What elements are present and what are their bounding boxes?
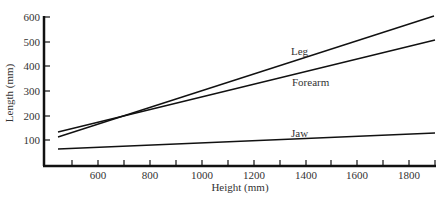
x-tick-labels: 600 800 1000 1200 1400 1600 1800 xyxy=(90,169,421,181)
y-tick-labels: 600 500 400 300 200 100 xyxy=(24,11,41,146)
series-label-jaw: Jaw xyxy=(291,127,308,139)
series-line-jaw xyxy=(58,133,435,149)
x-tick-label: 1000 xyxy=(191,169,214,181)
y-axis-title: Length (mm) xyxy=(3,63,16,122)
x-axis-title: Height (mm) xyxy=(211,181,268,194)
series-line-forearm xyxy=(58,40,435,132)
y-tick-label: 600 xyxy=(24,11,41,23)
x-tick-label: 800 xyxy=(142,169,159,181)
chart: 600 500 400 300 200 100 600 800 1000 120… xyxy=(0,0,439,197)
y-tick-label: 300 xyxy=(24,85,41,97)
x-tick-label: 1600 xyxy=(346,169,369,181)
x-tick-label: 1800 xyxy=(398,169,421,181)
x-tick-label: 600 xyxy=(90,169,107,181)
y-tick-label: 500 xyxy=(24,36,41,48)
y-tick-label: 200 xyxy=(24,110,41,122)
x-tick-label: 1400 xyxy=(295,169,318,181)
y-tick-label: 400 xyxy=(24,60,41,72)
series-label-forearm: Forearm xyxy=(292,76,330,88)
x-tick-label: 1200 xyxy=(243,169,266,181)
y-tick-label: 100 xyxy=(24,134,41,146)
series-label-leg: Leg xyxy=(291,45,309,57)
